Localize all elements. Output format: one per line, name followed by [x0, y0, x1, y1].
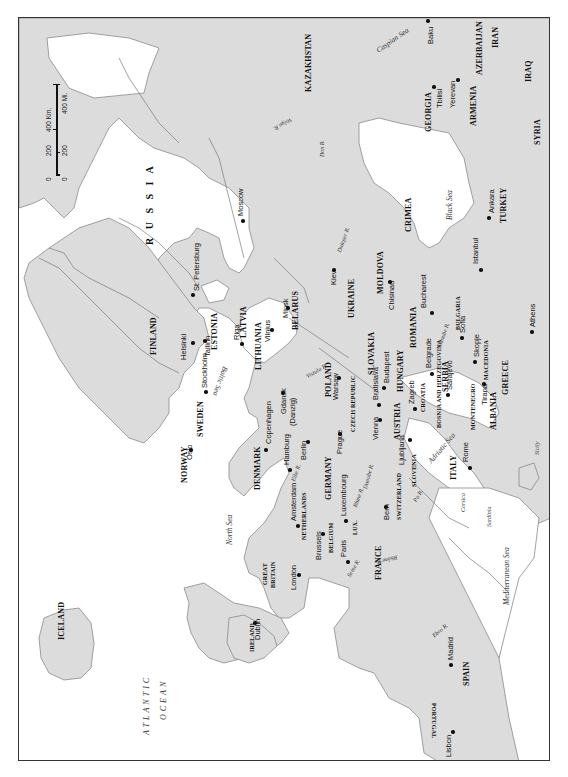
city-sofia: Sofia — [459, 316, 467, 333]
city-dot-ljubljana — [408, 438, 412, 442]
city-dot-zagreb — [413, 407, 417, 411]
city-madrid: Madrid — [447, 637, 455, 660]
water-atlantic-1: ATLANTIC — [143, 675, 151, 735]
label-kazakhstan: KAZAKHSTAN — [305, 34, 313, 92]
city-belgrade: Belgrade — [425, 338, 433, 368]
city-paris: Paris — [340, 540, 348, 557]
city-oslo: Oslo — [186, 445, 194, 460]
city-dot-helsinki — [191, 341, 195, 345]
water-north-sea: North Sea — [226, 515, 234, 545]
label-estonia: ESTONIA — [211, 313, 219, 350]
label-croatia: CROATIA — [420, 383, 426, 412]
city-vilnius: Vilnius — [264, 320, 272, 342]
city-dot-copenhagen — [264, 448, 268, 452]
city-yerevan: Yerevan — [449, 81, 457, 108]
label-belarus: BELARUS — [292, 291, 300, 330]
city-berlin: Berlin — [300, 441, 308, 460]
city-dot-istanbul — [479, 268, 483, 272]
city-dublin: Dublin — [254, 619, 262, 640]
city-tbilisi: Tbilisi — [436, 89, 444, 108]
city-danzig: (Danzig) — [289, 398, 297, 426]
city-amsterdam: Amsterdam — [290, 483, 298, 521]
city-gdansk: Gdansk — [280, 388, 288, 414]
scale-bar: 0 200 400 Km. 0 200 400 Mi. — [47, 84, 87, 184]
label-romania: ROMANIA — [410, 307, 418, 348]
city-dot-riga — [240, 342, 244, 346]
water-black-sea: Black Sea — [446, 190, 454, 220]
water-mediterranean: Mediterranean Sea — [503, 547, 511, 605]
city-dot-st-petersburg — [191, 293, 195, 297]
label-greece: GREECE — [502, 360, 510, 395]
city-helsinki: Helsinki — [180, 334, 188, 360]
label-spain: SPAIN — [463, 662, 471, 686]
city-dot-skopje — [473, 360, 477, 364]
city-sarajevo: Sarajevo — [446, 360, 454, 390]
city-rome: Rome — [462, 442, 470, 462]
city-dot-hamburg — [288, 468, 292, 472]
city-dot-ankara — [487, 216, 491, 220]
label-finland: FINLAND — [150, 317, 158, 355]
island-sicily: Sicily — [534, 442, 540, 455]
label-russia: R U S S I A — [145, 163, 155, 245]
city-dot-moscow — [241, 219, 245, 223]
city-budapest: Budapest — [383, 351, 391, 383]
city-bucharest: Bucharest — [420, 274, 428, 308]
city-stockholm: Stockholm — [201, 353, 209, 388]
label-hungary: HUNGARY — [397, 350, 405, 392]
city-copenhagen: Copenhagen — [265, 401, 273, 444]
city-athens: Athens — [529, 304, 537, 327]
city-chisinau: Chisinau — [388, 281, 396, 310]
scale-km-0: 0 — [45, 177, 52, 181]
city-london: London — [290, 565, 298, 590]
city-dot-luxembourg — [344, 519, 348, 523]
city-dot-sofia — [460, 336, 464, 340]
label-great-britain-2: BRITAIN — [270, 561, 276, 588]
label-iran: IRAN — [492, 27, 500, 48]
scale-km-400: 400 Km. — [45, 108, 52, 132]
label-albania: ALBANIA — [490, 392, 498, 430]
city-minsk: Minsk — [282, 298, 290, 318]
label-switzerland: SWITZERLAND — [396, 473, 402, 520]
city-dot-athens — [530, 330, 534, 334]
scale-mi-0: 0 — [61, 177, 68, 181]
city-dot-tbilisi — [432, 85, 436, 89]
city-baku: Baku — [427, 27, 435, 44]
city-tirana: Tirana — [481, 384, 489, 405]
city-dot-rome — [468, 466, 472, 470]
city-bern: Bern — [383, 504, 391, 520]
label-moldova: MOLDOVA — [377, 251, 385, 294]
label-germany: GERMANY — [325, 456, 333, 500]
label-armenia: ARMENIA — [470, 85, 478, 126]
label-denmark: DENMARK — [254, 446, 262, 490]
label-iceland: ICELAND — [58, 602, 66, 640]
label-crimea: CRIMEA — [405, 197, 413, 232]
island-corsica: Corsica — [460, 493, 466, 512]
city-brussels: Brussels — [315, 531, 323, 560]
label-syria: SYRIA — [534, 119, 542, 145]
city-vienna: Vienna — [372, 417, 380, 440]
label-italy: ITALY — [450, 455, 458, 480]
city-warsaw: Warsaw — [332, 373, 340, 400]
label-portugal: PORTUGAL — [431, 703, 437, 738]
city-ankara: Ankara — [488, 189, 496, 213]
label-belgium: BELGIUM — [328, 523, 334, 553]
label-ukraine: UKRAINE — [348, 279, 356, 318]
scale-km-200: 200 — [45, 145, 52, 156]
city-dot-sarajevo — [446, 393, 450, 397]
label-iraq: IRAQ — [525, 60, 533, 82]
city-dot-amsterdam — [296, 524, 300, 528]
island-sardinia: Sardinia — [486, 507, 492, 527]
water-atlantic-2: OCEAN — [160, 679, 168, 720]
city-dot-lisbon — [451, 730, 455, 734]
city-lisbon: Lisbon — [445, 735, 453, 757]
city-prague: Prague — [336, 430, 344, 454]
label-lux: LUX. — [352, 520, 358, 535]
city-ljubljana: Ljubljana — [398, 435, 406, 465]
river-don: Don R. — [319, 140, 325, 157]
city-dot-madrid — [449, 663, 453, 667]
city-riga: Riga — [233, 325, 241, 340]
city-dot-budapest — [382, 386, 386, 390]
city-st-petersburg: St. Petersburg — [193, 243, 201, 291]
label-bosnia: BOSNIA AND HERZEGOVINA — [436, 340, 442, 428]
city-dot-bratislava — [377, 403, 381, 407]
